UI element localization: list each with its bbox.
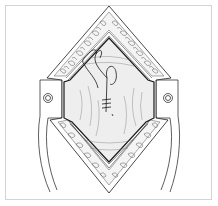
left-retractor bbox=[38, 80, 62, 192]
right-retractor bbox=[156, 80, 180, 192]
surgical-illustration bbox=[0, 0, 218, 206]
